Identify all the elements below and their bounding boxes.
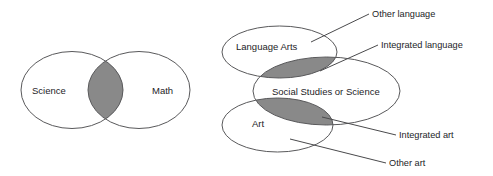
other-art-callout: Other art bbox=[389, 158, 426, 168]
integrated-art-callout: Integrated art bbox=[399, 130, 454, 140]
other-art-leader-line bbox=[290, 139, 386, 163]
other-language-leader-line bbox=[311, 14, 369, 42]
science-label: Science bbox=[32, 85, 66, 96]
integrated-language-callout: Integrated language bbox=[381, 40, 463, 50]
other-language-callout: Other language bbox=[372, 9, 435, 19]
language-arts-label: Language Arts bbox=[236, 41, 298, 52]
venn-diagram-figure: Science Math Language Arts Social Studie… bbox=[0, 0, 493, 176]
math-ellipse bbox=[88, 52, 190, 129]
art-label: Art bbox=[252, 118, 265, 129]
left-venn-group: Science Math bbox=[21, 52, 190, 129]
social-studies-label: Social Studies or Science bbox=[272, 86, 380, 97]
math-label: Math bbox=[152, 85, 173, 96]
figure-canvas: Science Math Language Arts Social Studie… bbox=[0, 0, 493, 176]
right-venn-group: Language Arts Social Studies or Science … bbox=[222, 9, 463, 168]
